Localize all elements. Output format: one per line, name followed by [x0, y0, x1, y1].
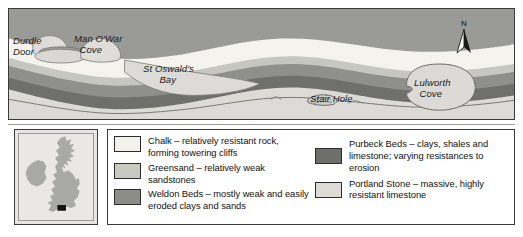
legend-item-weldon-beds: Weldon Beds – mostly weak and easily ero…	[114, 188, 309, 212]
north-arrow-label: N	[452, 19, 476, 28]
map-geology-bands	[9, 9, 514, 119]
map-label-st-oswalds-bay: St Oswald's Bay	[143, 64, 194, 85]
legend-label-chalk: Chalk – relatively resistant rock, formi…	[148, 135, 309, 159]
legend-item-greensand: Greensand – relatively weak sandstones	[114, 162, 309, 186]
location-marker	[58, 205, 66, 210]
panel-divider	[8, 124, 515, 125]
map-label-stair-hole: Stair Hole	[310, 94, 353, 105]
legend: Chalk – relatively resistant rock, formi…	[107, 129, 515, 225]
legend-item-chalk: Chalk – relatively resistant rock, formi…	[114, 135, 309, 159]
geology-map-figure: Durdle Door Man O'War Cove St Oswald's B…	[0, 0, 523, 237]
map-label-lulworth-cove: Lulworth Cove	[414, 78, 451, 99]
legend-label-portland-stone: Portland Stone – massive, highly resista…	[349, 178, 510, 202]
great-britain-shape	[47, 136, 79, 212]
legend-swatch-purbeck-beds	[315, 148, 342, 164]
ireland-shape	[26, 160, 47, 187]
compass-needle-icon	[454, 29, 474, 54]
legend-item-purbeck-beds: Purbeck Beds – clays, shales and limesto…	[315, 138, 510, 174]
legend-item-portland-stone: Portland Stone – massive, highly resista…	[315, 178, 510, 202]
north-arrow-icon: N	[452, 20, 476, 54]
legend-swatch-greensand	[114, 163, 141, 179]
legend-swatch-portland-stone	[315, 182, 342, 198]
inset-locator-map	[14, 129, 98, 225]
inset-frame	[18, 133, 94, 221]
legend-column-right: Purbeck Beds – clays, shales and limesto…	[315, 135, 510, 220]
legend-label-weldon-beds: Weldon Beds – mostly weak and easily ero…	[148, 188, 309, 212]
legend-label-greensand: Greensand – relatively weak sandstones	[148, 162, 309, 186]
legend-swatch-weldon-beds	[114, 189, 141, 205]
british-isles-icon	[19, 134, 93, 220]
map-label-man-o-war-cove: Man O'War Cove	[74, 34, 122, 55]
map-label-durdle-door: Durdle Door	[13, 36, 42, 57]
legend-swatch-chalk	[114, 136, 141, 152]
map-panel	[8, 8, 515, 120]
legend-label-purbeck-beds: Purbeck Beds – clays, shales and limesto…	[349, 138, 510, 174]
legend-column-left: Chalk – relatively resistant rock, formi…	[114, 135, 309, 220]
